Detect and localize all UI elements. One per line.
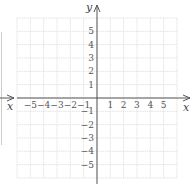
x-tick-label: 4 [147,100,153,110]
y-tick-label: −5 [81,160,95,170]
y-axis-label: y [85,1,93,14]
y-tick-label: −4 [81,146,95,156]
y-tick-label: −1 [81,106,94,116]
x-tick-labels: −5−4−3−2−112345 [24,100,167,110]
y-tick-label: 1 [88,80,94,90]
y-tick-label: 4 [88,40,94,50]
x-tick-label: 1 [107,100,113,110]
x-tick-label: −4 [37,100,51,110]
y-tick-label: 5 [88,26,94,36]
x-tick-label: 2 [121,100,127,110]
x-tick-label: 5 [161,100,167,110]
y-tick-label: −2 [81,120,94,130]
x-tick-label: −3 [50,100,64,110]
coordinate-plane: x x y −5−4−3−2−112345 54321−1−2−3−4−5 [0,0,196,184]
x-axis-label-right: x [183,101,190,114]
y-tick-label: 2 [88,66,94,76]
y-tick-label: 3 [88,53,94,63]
x-tick-label: 3 [134,100,140,110]
x-axis-label-left: x [7,100,14,113]
y-tick-label: −3 [81,133,95,143]
x-tick-label: −5 [24,100,38,110]
x-tick-label: −2 [64,100,77,110]
